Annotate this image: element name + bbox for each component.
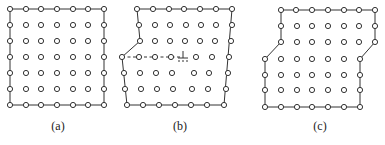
atom-circle	[293, 7, 298, 12]
atom-circle	[101, 38, 106, 43]
atom-circle	[191, 70, 196, 75]
bond-line	[360, 42, 375, 59]
atom-circle	[101, 102, 106, 107]
atom-circle	[372, 39, 377, 44]
atom-circle	[85, 86, 90, 91]
atom-circle	[294, 104, 299, 109]
atom-circle	[23, 54, 28, 59]
atom-circle	[38, 86, 43, 91]
atom-circle	[309, 23, 314, 28]
atom-circle	[23, 70, 28, 75]
atom-circle	[170, 86, 175, 91]
atom-circle	[7, 86, 12, 91]
atom-circle	[23, 6, 28, 11]
atom-circle	[38, 38, 43, 43]
atom-circle	[85, 6, 90, 11]
atom-circle	[325, 7, 330, 12]
atom-circle	[294, 39, 299, 44]
atom-circle	[213, 6, 218, 11]
atom-circle	[356, 7, 361, 12]
atom-circle	[154, 86, 159, 91]
atom-circle	[221, 102, 226, 107]
atom-circle	[23, 86, 28, 91]
bond-line	[122, 57, 127, 105]
atom-circle	[225, 70, 230, 75]
atom-circle	[341, 23, 346, 28]
atom-circle	[193, 54, 198, 59]
atom-circle	[226, 54, 231, 59]
panel-a-lattice	[7, 6, 106, 107]
atom-circle	[188, 102, 193, 107]
atom-circle	[23, 102, 28, 107]
atom-circle	[341, 56, 346, 61]
atom-circle	[262, 56, 267, 61]
atom-circle	[198, 22, 203, 27]
atom-circle	[341, 87, 346, 92]
atom-circle	[70, 38, 75, 43]
atom-circle	[70, 6, 75, 11]
atom-circle	[7, 54, 12, 59]
atom-circle	[70, 22, 75, 27]
bond-line	[265, 42, 281, 59]
atom-circle	[205, 86, 210, 91]
atom-circle	[182, 38, 187, 43]
atom-circle	[206, 70, 211, 75]
panel-a-label: (a)	[43, 119, 73, 134]
atom-circle	[7, 6, 12, 11]
atom-circle	[7, 70, 12, 75]
atom-circle	[325, 72, 330, 77]
atom-circle	[85, 70, 90, 75]
atom-circle	[101, 70, 106, 75]
panel-b-lattice	[119, 6, 234, 107]
atom-circle	[54, 86, 59, 91]
atom-circle	[341, 104, 346, 109]
atom-circle	[309, 39, 314, 44]
atom-circle	[229, 6, 234, 11]
atom-circle	[181, 6, 186, 11]
atom-circle	[85, 38, 90, 43]
atom-circle	[372, 7, 377, 12]
atom-circle	[85, 54, 90, 59]
atom-circle	[278, 39, 283, 44]
atom-circle	[54, 102, 59, 107]
atom-circle	[7, 38, 12, 43]
atom-circle	[38, 102, 43, 107]
atom-circle	[294, 72, 299, 77]
atom-circle	[101, 22, 106, 27]
atom-circle	[325, 104, 330, 109]
atom-circle	[70, 54, 75, 59]
atom-circle	[54, 6, 59, 11]
atom-circle	[262, 104, 267, 109]
atom-circle	[357, 104, 362, 109]
atom-circle	[152, 38, 157, 43]
atom-circle	[197, 38, 202, 43]
atom-circle	[213, 22, 218, 27]
atom-circle	[278, 104, 283, 109]
atom-circle	[278, 72, 283, 77]
atom-circle	[150, 6, 155, 11]
atom-circle	[294, 56, 299, 61]
panel-c-label: (c)	[305, 119, 335, 134]
atom-circle	[169, 70, 174, 75]
atom-circle	[152, 54, 157, 59]
atom-circle	[70, 70, 75, 75]
atom-circle	[325, 39, 330, 44]
atom-circle	[70, 102, 75, 107]
atom-circle	[124, 102, 129, 107]
atom-circle	[101, 54, 106, 59]
atom-circle	[122, 86, 127, 91]
atom-circle	[278, 23, 283, 28]
atom-circle	[85, 102, 90, 107]
atom-circle	[262, 72, 267, 77]
atom-circle	[325, 23, 330, 28]
atom-circle	[7, 22, 12, 27]
atom-circle	[229, 22, 234, 27]
atom-circle	[278, 7, 283, 12]
atom-circle	[38, 22, 43, 27]
atom-circle	[101, 6, 106, 11]
atom-circle	[38, 70, 43, 75]
atom-circle	[262, 87, 267, 92]
atom-circle	[134, 6, 139, 11]
atom-circle	[204, 102, 209, 107]
atom-circle	[183, 22, 188, 27]
